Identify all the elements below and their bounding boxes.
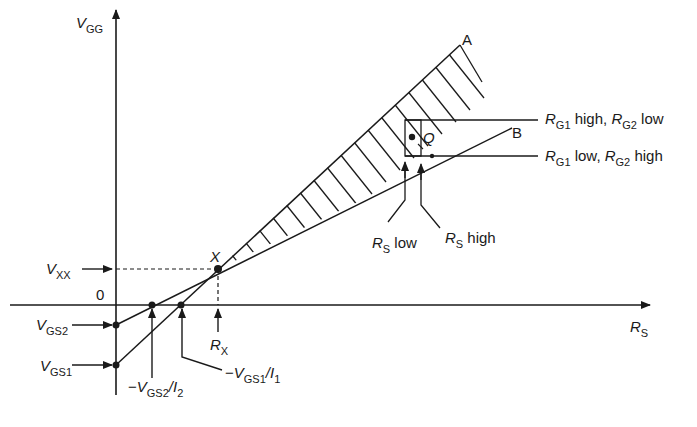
rx-label: RX <box>210 336 229 357</box>
origin-label: 0 <box>96 286 104 303</box>
line-b-condition-label: RG1 low, RG2 high <box>545 147 663 168</box>
point-x-dot <box>214 265 222 273</box>
q-box-corner-dot <box>430 154 434 158</box>
point-b-label: B <box>512 124 522 141</box>
intercept1-label: −VGS1/I1 <box>225 364 280 385</box>
line-a <box>116 45 460 365</box>
vgs2-label: VGS2 <box>36 316 68 337</box>
x-axis-label: RS <box>630 318 648 339</box>
point-a-label: A <box>462 31 472 48</box>
bias-design-diagram: VGG RS 0 A B X Q VXX VGS2 VGS1 −VGS2/I2 … <box>0 0 697 427</box>
line-b <box>116 128 512 325</box>
intercept1-dot <box>178 302 185 309</box>
point-x-label: X <box>209 248 221 265</box>
vxx-label: VXX <box>46 260 71 281</box>
rs-high-label: RS high <box>445 229 496 250</box>
rs-low-label: RS low <box>372 234 417 255</box>
vgs1-dot <box>113 362 120 369</box>
point-q-label: Q <box>423 129 435 146</box>
intercept2-label: −VGS2/I2 <box>128 378 183 399</box>
q-point-dot <box>409 134 415 140</box>
vgs1-label: VGS1 <box>40 357 72 378</box>
rs-low-leader <box>388 170 405 222</box>
hatch-edge <box>460 45 482 82</box>
line-a-condition-label: RG1 high, RG2 low <box>545 110 664 131</box>
rs-high-leader <box>421 172 440 228</box>
vgs2-dot <box>113 322 120 329</box>
y-axis-label: VGG <box>76 14 103 35</box>
intercept2-dot <box>149 302 156 309</box>
